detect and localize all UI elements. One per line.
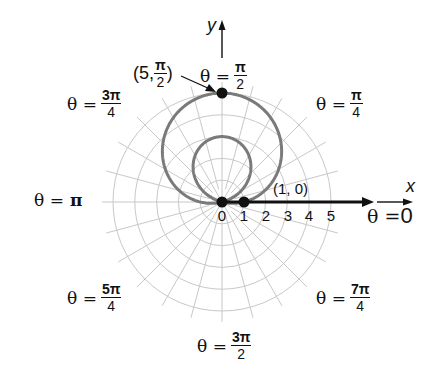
point-label-fraction: π 2: [154, 58, 167, 89]
fraction-denominator: 2: [156, 74, 164, 89]
angle-prefix: θ =: [197, 336, 227, 356]
point-pole: [217, 197, 228, 208]
angle-label-0: θ = 0: [367, 203, 413, 229]
point-label-open: (5,: [133, 63, 154, 84]
fraction-numerator: π: [234, 60, 247, 76]
angle-prefix: θ =: [316, 288, 346, 308]
fraction-numerator: 5π: [101, 282, 122, 298]
radial-tick-5: 5: [327, 207, 335, 224]
angle-prefix: θ =: [67, 288, 97, 308]
angle-fraction: π 2: [234, 60, 247, 91]
point-label-5-pi-over-2: (5, π 2 ): [133, 58, 173, 89]
angle-fraction: 3π 4: [101, 88, 122, 119]
angle-fraction: 5π 4: [101, 282, 122, 313]
radial-tick-2: 2: [262, 207, 270, 224]
angle-label-5pi-over-4: θ = 5π 4: [67, 282, 121, 313]
angle-prefix: θ =: [200, 66, 230, 86]
y-axis-arrow-icon: [219, 20, 226, 30]
angle-fraction: 7π 4: [350, 282, 371, 313]
radial-tick-3: 3: [284, 207, 292, 224]
angle-label-3pi-over-4: θ = 3π 4: [67, 88, 121, 119]
fraction-numerator: 7π: [350, 282, 371, 298]
fraction-numerator: 3π: [101, 88, 122, 104]
angle-fraction: 3π 2: [231, 330, 252, 361]
angle-prefix: θ =: [67, 94, 97, 114]
point-label-close: ): [167, 63, 173, 84]
angle-prefix: θ =: [34, 190, 64, 210]
fraction-denominator: 4: [352, 104, 360, 119]
angle-prefix: θ =: [367, 205, 400, 227]
angle-fraction: π 4: [350, 88, 363, 119]
fraction-denominator: 4: [107, 298, 115, 313]
angle-label-7pi-over-4: θ = 7π 4: [316, 282, 370, 313]
fraction-numerator: π: [350, 88, 363, 104]
x-axis-label: x: [406, 176, 415, 197]
angle-value: π: [70, 190, 82, 210]
fraction-numerator: 3π: [231, 330, 252, 346]
radial-tick-1: 1: [240, 207, 248, 224]
angle-label-3pi-over-2: θ = 3π 2: [197, 330, 251, 361]
fraction-denominator: 4: [107, 104, 115, 119]
radial-tick-0: 0: [218, 207, 226, 224]
point-label-1-0: (1, 0): [273, 180, 308, 197]
fraction-denominator: 4: [356, 298, 364, 313]
angle-label-pi: θ = π: [34, 190, 82, 210]
fraction-denominator: 2: [236, 76, 244, 91]
point-1-0: [239, 197, 250, 208]
radial-tick-4: 4: [305, 207, 313, 224]
polar-graph: [0, 0, 437, 375]
y-axis-label: y: [207, 15, 216, 36]
angle-prefix: θ =: [316, 94, 346, 114]
angle-label-pi-over-2: θ = π 2: [200, 60, 247, 91]
angle-label-pi-over-4: θ = π 4: [316, 88, 363, 119]
angle-value: 0: [400, 203, 412, 229]
fraction-denominator: 2: [237, 346, 245, 361]
fraction-numerator: π: [154, 58, 167, 74]
